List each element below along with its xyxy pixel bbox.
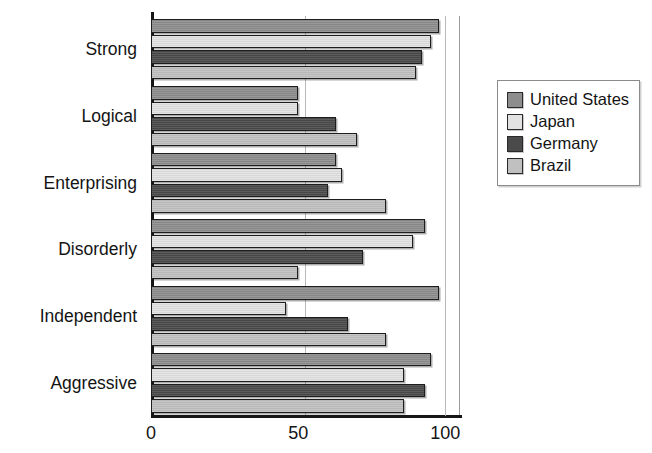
bar-disorderly-japan (151, 235, 413, 249)
legend-item-japan[interactable]: Japan (507, 111, 629, 132)
bar-aggressive-japan (151, 368, 404, 382)
legend-label: Brazil (530, 156, 571, 175)
x-tick-label-0: 0 (146, 423, 156, 444)
x-tick-label-50: 50 (288, 423, 308, 444)
bar-aggressive-germany (151, 384, 425, 398)
y-axis-label-disorderly: Disorderly (58, 239, 137, 260)
legend-swatch-icon (507, 114, 523, 130)
bar-strong-germany (151, 50, 422, 64)
bar-logical-germany (151, 117, 336, 131)
bar-aggressive-united-states (151, 353, 431, 367)
bar-strong-brazil (151, 66, 416, 80)
legend-item-united-states[interactable]: United States (507, 89, 629, 110)
bar-logical-japan (151, 102, 298, 116)
bar-independent-united-states (151, 286, 439, 300)
y-axis-label-aggressive: Aggressive (50, 372, 137, 393)
y-axis-label-logical: Logical (82, 106, 137, 127)
bar-enterprising-united-states (151, 153, 336, 167)
gridline-100 (445, 16, 446, 416)
bar-chart: StrongLogicalEnterprisingDisorderlyIndep… (0, 0, 652, 453)
bar-aggressive-brazil (151, 399, 404, 413)
legend-swatch-icon (507, 136, 523, 152)
bar-enterprising-brazil (151, 199, 386, 213)
legend-label: United States (530, 90, 629, 109)
bar-logical-united-states (151, 86, 298, 100)
y-axis-label-enterprising: Enterprising (44, 172, 137, 193)
bar-logical-brazil (151, 133, 357, 147)
bar-strong-japan (151, 35, 431, 49)
bar-independent-japan (151, 302, 286, 316)
legend-item-germany[interactable]: Germany (507, 133, 629, 154)
x-tick-label-100: 100 (430, 423, 460, 444)
legend-item-brazil[interactable]: Brazil (507, 155, 629, 176)
bar-enterprising-germany (151, 184, 328, 198)
y-axis-labels: StrongLogicalEnterprisingDisorderlyIndep… (0, 0, 145, 453)
legend-label: Japan (530, 112, 575, 131)
y-axis-label-independent: Independent (40, 306, 137, 327)
plot-area (151, 16, 460, 418)
bar-enterprising-japan (151, 168, 342, 182)
bar-disorderly-brazil (151, 266, 298, 280)
bar-disorderly-germany (151, 250, 363, 264)
legend-swatch-icon (507, 92, 523, 108)
y-axis-label-strong: Strong (85, 39, 137, 60)
bar-disorderly-united-states (151, 219, 425, 233)
bar-independent-germany (151, 317, 348, 331)
bar-strong-united-states (151, 19, 439, 33)
legend-swatch-icon (507, 158, 523, 174)
legend: United StatesJapanGermanyBrazil (497, 80, 640, 186)
bar-independent-brazil (151, 333, 386, 347)
legend-label: Germany (530, 134, 598, 153)
